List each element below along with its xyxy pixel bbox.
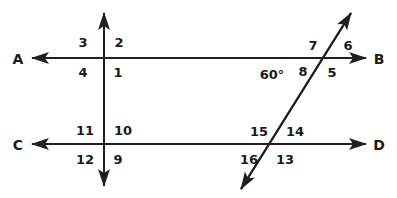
geometry-diagram: A B C D 1 2 3 4 5 6 7 8 9 10 11 12 13 14… [0, 0, 397, 198]
angle-label-5: 5 [327, 66, 336, 79]
label-C: C [13, 138, 23, 152]
angle-label-15: 15 [250, 125, 268, 138]
label-A: A [13, 52, 24, 66]
angle-label-6: 6 [343, 39, 352, 52]
angle-label-14: 14 [286, 125, 304, 138]
angle-label-12: 12 [76, 153, 94, 166]
angle-label-1: 1 [113, 66, 122, 79]
angle-label-4: 4 [78, 66, 87, 79]
angle-label-16: 16 [240, 153, 258, 166]
label-D: D [373, 138, 385, 152]
geometry-canvas [0, 0, 397, 198]
label-B: B [374, 52, 385, 66]
angle-label-2: 2 [114, 36, 123, 49]
angle-label-7: 7 [308, 39, 317, 52]
angle-measure-60: 60° [260, 68, 285, 81]
angle-label-3: 3 [78, 36, 87, 49]
angle-label-8: 8 [298, 65, 307, 78]
angle-label-13: 13 [276, 153, 294, 166]
angle-label-11: 11 [76, 124, 94, 137]
angle-label-9: 9 [113, 153, 122, 166]
angle-label-10: 10 [114, 124, 132, 137]
